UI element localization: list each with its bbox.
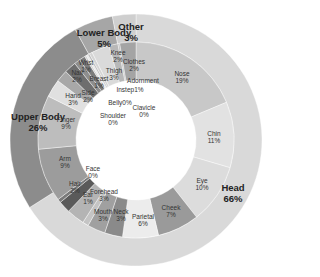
label-head: Head66% bbox=[221, 182, 244, 204]
label-clothes: Clothes2% bbox=[123, 58, 145, 72]
label-parietal: Parietal6% bbox=[132, 213, 154, 227]
label-adornment: Adornment bbox=[127, 77, 159, 84]
label-hand: Hand3% bbox=[65, 92, 81, 106]
label-instep: Instep1% bbox=[116, 86, 143, 93]
label-neck: Neck3% bbox=[114, 208, 129, 222]
label-forehead: Forehead3% bbox=[90, 188, 118, 202]
label-belly: Belly0% bbox=[108, 99, 132, 106]
label-clavicle: Clavicle0% bbox=[133, 104, 156, 118]
label-face: Face0% bbox=[86, 165, 100, 179]
label-arm: Arm9% bbox=[59, 155, 71, 169]
label-thigh: Thigh3% bbox=[106, 67, 122, 81]
label-shoulder: Shoulder0% bbox=[100, 112, 126, 126]
label-mouth: Mouth3% bbox=[94, 208, 112, 222]
label-finger: Finger9% bbox=[57, 116, 75, 130]
label-wrist: Wrist1% bbox=[79, 59, 94, 73]
label-side: Side2% bbox=[81, 89, 94, 103]
label-eye: Eye10% bbox=[195, 177, 208, 191]
label-hair: Hair2% bbox=[69, 180, 81, 194]
label-other: Other3% bbox=[118, 21, 143, 43]
label-chin: Chin11% bbox=[207, 130, 220, 144]
label-cheek: Cheek7% bbox=[162, 204, 181, 218]
label-nose: Nose19% bbox=[174, 70, 189, 84]
